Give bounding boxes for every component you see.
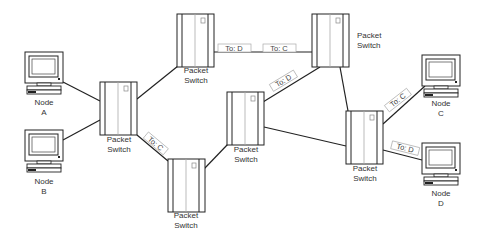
switch-s5-label-1: Packet — [174, 211, 199, 220]
packet-switch-s3 — [312, 14, 349, 67]
packet-s2-s3-to-c: To: C — [263, 44, 296, 53]
node-c-label-1: Node — [431, 99, 451, 108]
packet-switch-s2 — [177, 14, 214, 67]
link-s1-s2 — [137, 66, 178, 99]
node-a-label-2: A — [41, 108, 47, 117]
switch-s1-label-1: Packet — [107, 135, 132, 144]
computer-icon-node-d — [422, 143, 460, 185]
packet-s1-s5-to-c: To: C — [143, 132, 169, 156]
link-s4-s6 — [264, 127, 346, 146]
switch-s3-label-2: Switch — [357, 41, 381, 50]
link-a-s1 — [63, 82, 100, 101]
link-s5-s4 — [204, 143, 229, 169]
node-a-label-1: Node — [34, 98, 54, 107]
link-s3-s6 — [340, 67, 348, 111]
svg-text:To: D: To: D — [396, 142, 416, 155]
node-d-label-1: Node — [431, 189, 451, 198]
node-b-label-2: B — [41, 187, 46, 196]
switch-s2-label-1: Packet — [184, 66, 209, 75]
link-b-s1 — [63, 120, 100, 140]
packet-switch-s5 — [168, 159, 205, 212]
computer-icon-node-c — [422, 55, 460, 97]
switch-s6-label-2: Switch — [353, 174, 377, 183]
packet-switch-s4 — [227, 92, 264, 145]
packet-s6-c-to-c: To: C — [384, 88, 412, 112]
computer-icon-node-b — [25, 130, 63, 172]
switch-s1-label-2: Switch — [107, 145, 131, 154]
packet-s4-s3-to-d: To: D — [269, 70, 298, 92]
node-c-label-2: C — [438, 109, 444, 118]
switch-s3-label-1: Packet — [357, 31, 382, 40]
node-d-label-2: D — [438, 199, 444, 208]
switch-s2-label-2: Switch — [184, 76, 208, 85]
computer-icon-node-a — [25, 52, 63, 94]
switch-s4-label-2: Switch — [234, 155, 258, 164]
node-b-label-1: Node — [34, 177, 54, 186]
network-diagram: Node A Node B Node C Node D Packet Switc… — [0, 0, 485, 234]
packet-switch-s6 — [346, 111, 383, 164]
switch-s6-label-1: Packet — [353, 164, 378, 173]
packet-switch-s1 — [100, 82, 137, 135]
packet-s2-s3-to-d: To: D — [218, 44, 251, 53]
switch-s5-label-2: Switch — [174, 221, 198, 230]
switch-s4-label-1: Packet — [234, 145, 259, 154]
svg-text:To: D: To: D — [225, 44, 243, 53]
svg-text:To: C: To: C — [270, 44, 288, 53]
